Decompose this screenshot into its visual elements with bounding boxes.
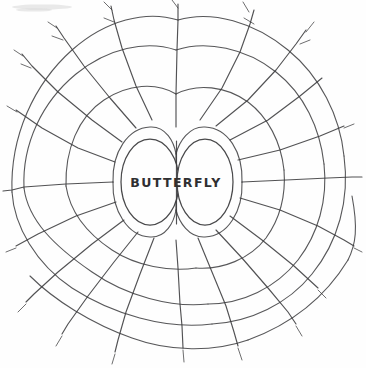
center-label-text: BUTTERFLY — [130, 175, 221, 190]
drawing-canvas: BUTTERFLY — [0, 0, 366, 368]
butterfly-topic-bubble: BUTTERFLY — [121, 139, 233, 225]
butterfly-web-diagram: BUTTERFLY — [0, 0, 366, 368]
pencil-smudge — [12, 4, 72, 11]
